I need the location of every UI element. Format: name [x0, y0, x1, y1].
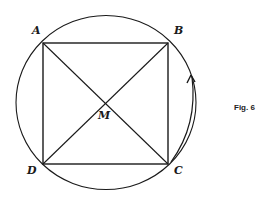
figure-caption: Fig. 6: [234, 103, 255, 112]
label-b: B: [174, 24, 183, 37]
label-d: D: [27, 164, 37, 177]
label-a: A: [32, 24, 41, 37]
geometry-diagram: [0, 0, 274, 198]
figure-canvas: A B C D M Fig. 6: [0, 0, 274, 198]
label-c: C: [174, 164, 183, 177]
label-m: M: [98, 109, 110, 122]
